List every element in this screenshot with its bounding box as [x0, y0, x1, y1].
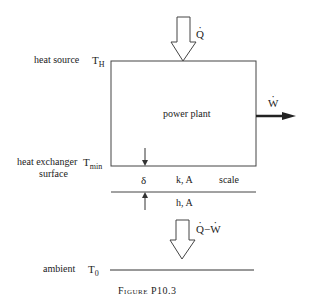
heat-rejection-arrow: [170, 220, 195, 259]
t-h-sub: H: [99, 60, 105, 69]
power-plant-label: power plant: [163, 109, 211, 119]
work-output-arrow-head: [282, 112, 296, 120]
heat-exchanger-label-line1: heat exchanger: [17, 157, 77, 167]
t-min-base: T: [83, 156, 90, 168]
delta-down-arrow-head: [142, 160, 148, 166]
thickness-delta-label: δ: [141, 175, 146, 186]
t-0-sub: 0: [95, 269, 99, 278]
t-0-label: T0: [88, 264, 99, 275]
heat-input-arrow: [171, 17, 196, 61]
t-h-base: T: [92, 54, 99, 66]
delta-up-arrow-head: [142, 192, 148, 198]
ambient-label: ambient: [43, 264, 75, 274]
convection-area-label: h, A: [176, 198, 193, 208]
w-dot: W: [268, 98, 278, 109]
work-output-label: W: [268, 98, 278, 109]
w-dot-out: W: [210, 224, 220, 235]
heat-input-label: Q: [196, 29, 204, 40]
scale-label: scale: [219, 175, 239, 185]
t-h-label: TH: [92, 55, 105, 66]
t-min-label: Tmin: [83, 157, 102, 168]
figure-caption: Figure P10.3: [118, 285, 177, 296]
q-dot-out: Q: [196, 224, 204, 235]
t-min-sub: min: [90, 162, 102, 171]
heat-source-label: heat source: [34, 55, 79, 65]
heat-rejection-label: Q−W: [196, 224, 221, 235]
conductivity-area-label: k, A: [176, 175, 193, 185]
q-dot: Q: [196, 29, 204, 40]
diagram-canvas: [0, 0, 312, 306]
t-0-base: T: [88, 263, 95, 275]
heat-exchanger-label-line2: surface: [39, 169, 68, 179]
